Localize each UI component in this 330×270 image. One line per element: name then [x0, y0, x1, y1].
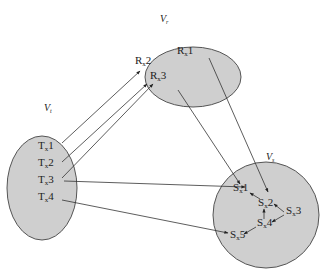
set-label-vs: Vs [266, 151, 275, 163]
set-label-vt: Vt [44, 102, 52, 114]
node-rx1: Rx1 [177, 44, 193, 58]
diagram-canvas: Vr Vt Vs Rx1 Rx2 Rx3 Tx1 Tx2 Tx3 Tx4 Sx1… [0, 0, 330, 270]
edge-tx3-rx3 [62, 84, 153, 178]
set-vt [7, 136, 77, 240]
edge-tx3-sx1 [64, 181, 245, 187]
set-label-vr: Vr [160, 13, 169, 25]
edge-tx1-rx2 [62, 71, 140, 143]
node-rx2: Rx2 [135, 54, 151, 68]
edge-tx4-sx5 [62, 200, 228, 233]
set-vs [213, 162, 319, 268]
edge-tx2-rx3 [62, 84, 147, 162]
